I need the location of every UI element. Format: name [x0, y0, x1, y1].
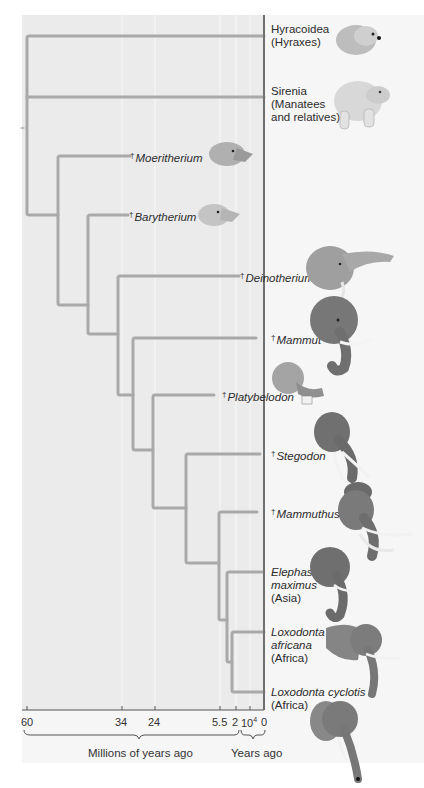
taxon-label-barytherium: †Barytherium	[129, 208, 196, 224]
millions-of-years-caption: Millions of years ago	[88, 747, 193, 759]
years-ago-caption: Years ago	[231, 747, 282, 759]
african-forest-elephant-illustration-icon	[308, 697, 374, 783]
taxon-label-mammuthus: †Mammuthus	[271, 505, 340, 521]
platybelodon-illustration-icon	[268, 358, 330, 414]
branch-hyracoidea	[27, 36, 264, 215]
millions-brace	[24, 730, 239, 739]
branch-stegodon	[186, 454, 260, 563]
branch-deinotherium	[118, 276, 239, 395]
time-axis	[22, 706, 265, 739]
extinct-dagger-icon: †	[129, 210, 133, 219]
years-brace	[241, 730, 265, 739]
hyrax-illustration-icon	[330, 18, 386, 58]
extinct-dagger-icon: †	[271, 449, 275, 458]
branch-mammuthus	[219, 512, 257, 620]
manatee-illustration-icon	[328, 75, 394, 133]
barytherium-illustration-icon	[194, 200, 242, 232]
extinct-dagger-icon: †	[222, 390, 226, 399]
taxon-label-hyracoidea: Hyracoidea (Hyraxes)	[271, 23, 329, 49]
tick-24: 24	[148, 716, 160, 728]
tick-34: 34	[115, 716, 127, 728]
phylogeny-figure: Hyracoidea (Hyraxes) Sirenia (Manatees a…	[0, 0, 424, 788]
tick-5-5: 5.5	[212, 716, 227, 728]
african-savanna-elephant-illustration-icon	[322, 620, 402, 698]
tick-60: 60	[21, 716, 33, 728]
tick-2: 2	[232, 716, 238, 728]
extinct-dagger-icon: †	[271, 333, 275, 342]
extinct-dagger-icon: †	[271, 507, 275, 516]
taxon-label-moeritherium: †Moeritherium	[130, 149, 203, 165]
taxon-label-loxodonta-africana: Loxodonta africana (Africa)	[271, 626, 325, 665]
extinct-dagger-icon: †	[130, 151, 134, 160]
extinct-dagger-icon: †	[240, 271, 244, 280]
branch-platybelodon	[153, 395, 214, 508]
tick-0: 0	[261, 716, 267, 728]
asian-elephant-illustration-icon	[308, 545, 360, 623]
tick-10-4: 104	[241, 716, 257, 729]
moeritherium-illustration-icon	[205, 138, 255, 172]
branch-loxodonta	[232, 632, 264, 692]
present-day-line	[263, 15, 265, 710]
